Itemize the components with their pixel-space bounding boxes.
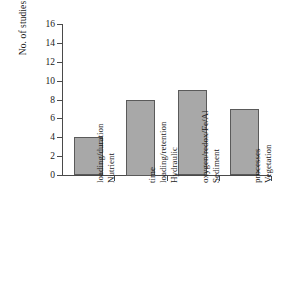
y-axis-tick — [57, 43, 62, 44]
y-axis-line — [62, 24, 63, 176]
y-axis-tick-label: 4 — [15, 133, 55, 143]
x-axis-category-label-line: processes — [252, 149, 263, 185]
y-axis-tick-label: 12 — [15, 58, 55, 68]
y-axis-tick-label: 8 — [15, 96, 55, 106]
y-axis-tick — [57, 118, 62, 119]
y-axis-tick — [57, 81, 62, 82]
y-axis-tick — [57, 175, 62, 176]
y-axis-tick — [57, 100, 62, 101]
y-axis-tick-label: 14 — [15, 39, 55, 49]
bar-chart: No. of studies 0246810121416 Nutrientloa… — [0, 0, 307, 289]
y-axis-tick — [57, 156, 62, 157]
x-axis-category-label-line: oxygen/redox/Fe/Al — [200, 111, 211, 185]
x-axis-category-label-line: Vegetation — [263, 145, 274, 185]
x-axis-category-label-line: loading/duration — [95, 124, 106, 185]
y-axis-tick — [57, 24, 62, 25]
x-axis-category-label-line: time — [147, 167, 158, 184]
y-axis-tick-label: 6 — [15, 114, 55, 124]
x-axis-category-label-line: Hydraulic — [169, 147, 180, 184]
x-axis-category-label-line: Sediment — [211, 149, 222, 184]
x-axis-category-label-line: Nutrient — [106, 153, 117, 184]
y-axis-tick-label: 16 — [15, 20, 55, 30]
y-axis-tick-label: 0 — [15, 171, 55, 181]
y-axis-tick-label: 2 — [15, 152, 55, 162]
y-axis-tick — [57, 137, 62, 138]
x-axis-category-label-line: loading/retention — [158, 122, 169, 184]
y-axis-tick-label: 10 — [15, 77, 55, 87]
y-axis-tick — [57, 62, 62, 63]
